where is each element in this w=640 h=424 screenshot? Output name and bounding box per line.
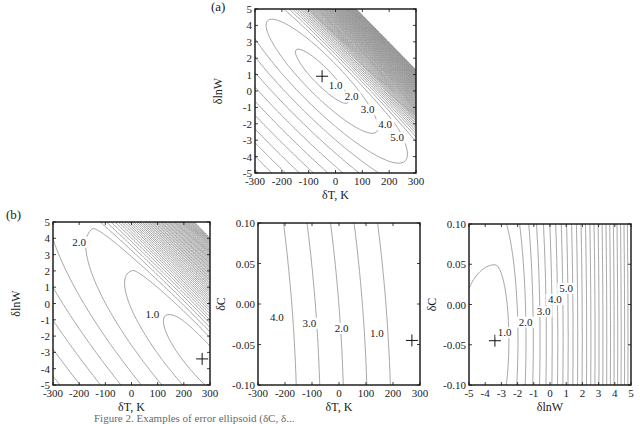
y-tick-label: -5 <box>243 167 253 179</box>
y-axis-label: δlnW <box>9 290 23 317</box>
contour-label: 3.0 <box>537 305 551 317</box>
y-tick-label: 0 <box>45 298 51 310</box>
y-tick-label: -0.10 <box>443 379 466 391</box>
y-tick-label: 2 <box>247 52 253 64</box>
x-tick-label: -100 <box>302 387 323 399</box>
x-tick-label: 0 <box>333 175 339 187</box>
contour-label: 2.0 <box>345 90 359 102</box>
x-tick-label: 5 <box>628 387 634 399</box>
y-tick-label: 1 <box>247 69 253 81</box>
figure-caption: Figure 2. Examples of error ellipsoid (δ… <box>94 412 294 424</box>
x-axis-label: δlnW <box>537 400 564 414</box>
x-tick-label: -200 <box>69 387 90 399</box>
y-tick-label: 4 <box>247 19 253 31</box>
x-tick-label: 1 <box>563 387 569 399</box>
y-tick-label: 0.05 <box>447 258 467 270</box>
y-tick-label: 0.05 <box>236 258 256 270</box>
y-tick-label: -0.05 <box>443 339 466 351</box>
x-tick-label: 200 <box>385 387 402 399</box>
minimum-cross-marker <box>316 70 328 82</box>
contour-label: 5.0 <box>559 282 573 294</box>
y-tick-label: -0.10 <box>232 379 255 391</box>
x-tick-label: 100 <box>358 387 375 399</box>
x-tick-label: -100 <box>299 175 320 187</box>
x-axis-label: δT, K <box>322 188 349 202</box>
x-tick-label: 300 <box>412 387 429 399</box>
y-axis-label: δC <box>425 298 439 312</box>
y-tick-label: -3 <box>41 346 51 358</box>
y-tick-label: 0.00 <box>236 298 256 310</box>
x-tick-label: 300 <box>408 175 425 187</box>
contour-label: 3.0 <box>361 103 375 115</box>
contour-label: 1.0 <box>146 308 160 320</box>
contour-label: 4.0 <box>378 118 392 130</box>
x-tick-label: 100 <box>354 175 371 187</box>
x-tick-label: 300 <box>202 387 219 399</box>
x-tick-label: 100 <box>149 387 166 399</box>
x-tick-label: -1 <box>529 387 538 399</box>
x-tick-label: -3 <box>497 387 507 399</box>
contour-label: 3.0 <box>302 317 316 329</box>
y-tick-label: 0.00 <box>447 299 467 311</box>
x-tick-label: 0 <box>129 387 135 399</box>
y-tick-label: -1 <box>41 314 50 326</box>
y-tick-label: 5 <box>247 3 253 15</box>
contour-label: 5.0 <box>390 131 404 143</box>
chart-panel-b2: -300-200-10001002003000.100.050.00-0.05-… <box>214 217 429 414</box>
x-tick-label: 0 <box>547 387 553 399</box>
chart-panel-a: -300-200-1000100200300543210-1-2-3-4-5δT… <box>211 3 425 202</box>
x-tick-label: 4 <box>612 387 618 399</box>
y-tick-label: 2 <box>45 265 51 277</box>
chart-panel-b1: -300-200-1000100200300543210-1-2-3-4-5δT… <box>9 216 219 414</box>
y-tick-label: -2 <box>41 330 50 342</box>
contour-label: 2.0 <box>519 316 533 328</box>
y-tick-label: -3 <box>243 134 253 146</box>
x-tick-label: -2 <box>513 387 522 399</box>
contour-label: 4.0 <box>548 293 562 305</box>
y-tick-label: -0.05 <box>232 339 255 351</box>
y-tick-label: -4 <box>243 151 253 163</box>
y-axis-label: δlnW <box>211 77 225 104</box>
minimum-cross-marker <box>406 334 418 346</box>
y-tick-label: 0 <box>247 85 253 97</box>
minimum-cross-marker <box>196 353 208 365</box>
y-tick-label: 0.10 <box>236 217 256 229</box>
y-tick-label: -2 <box>243 118 252 130</box>
chart-panel-b3: -5-4-3-2-10123450.100.050.00-0.05-0.10δl… <box>425 218 634 414</box>
y-tick-label: -5 <box>41 379 51 391</box>
x-tick-label: 200 <box>381 175 398 187</box>
x-tick-label: -100 <box>95 387 116 399</box>
y-axis-label: δC <box>214 297 228 311</box>
x-tick-label: 0 <box>336 387 342 399</box>
y-tick-label: 5 <box>45 216 51 228</box>
y-tick-label: 1 <box>45 281 51 293</box>
contour-label: 2.0 <box>335 322 349 334</box>
y-tick-label: -4 <box>41 363 51 375</box>
contour-label: 1.0 <box>329 79 343 91</box>
x-tick-label: 200 <box>176 387 193 399</box>
x-tick-label: 2 <box>580 387 586 399</box>
x-tick-label: -200 <box>275 387 296 399</box>
y-tick-label: 3 <box>247 36 253 48</box>
contour-label: 2.0 <box>72 236 86 248</box>
y-tick-label: 4 <box>45 232 51 244</box>
x-tick-label: -200 <box>272 175 293 187</box>
x-axis-label: δT, K <box>326 400 353 414</box>
x-tick-label: 3 <box>596 387 602 399</box>
x-tick-label: -4 <box>481 387 491 399</box>
contour-label: 4.0 <box>270 311 284 323</box>
y-tick-label: 0.10 <box>447 218 467 230</box>
y-tick-label: -1 <box>243 101 252 113</box>
y-tick-label: 3 <box>45 249 51 261</box>
contour-label: 1.0 <box>370 327 384 339</box>
contour-label: 1.0 <box>498 326 512 338</box>
